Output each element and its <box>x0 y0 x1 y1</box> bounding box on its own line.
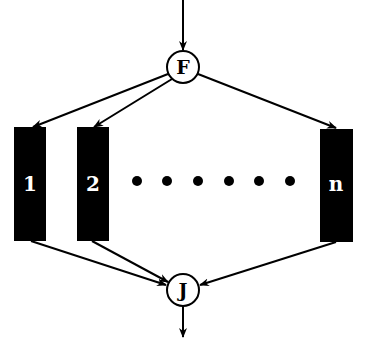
diagram-svg: F 1 2 n <box>0 0 366 349</box>
fork-join-diagram: F 1 2 n <box>0 0 366 349</box>
ellipsis-dots <box>132 176 295 186</box>
task-label-n: n <box>329 172 344 196</box>
task-label-2: 2 <box>86 172 100 196</box>
fork-arrow-1 <box>33 74 168 127</box>
task-label-1: 1 <box>23 172 37 196</box>
join-label: J <box>177 279 188 301</box>
task-box-1: 1 <box>14 127 46 241</box>
join-arrow-1 <box>31 241 166 285</box>
fork-label: F <box>176 56 190 78</box>
join-node: J <box>167 274 199 306</box>
join-arrow-n <box>200 242 336 285</box>
join-arrow-2 <box>92 241 168 282</box>
fork-arrow-2 <box>94 79 172 127</box>
task-box-n: n <box>320 129 353 242</box>
fork-node: F <box>167 51 199 83</box>
fork-arrow-n <box>198 74 336 128</box>
task-box-2: 2 <box>77 127 109 241</box>
